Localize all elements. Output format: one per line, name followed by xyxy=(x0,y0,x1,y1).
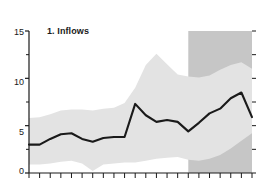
confidence-band xyxy=(29,54,252,171)
chart-panel: 1. Inflows 15 10 5 0 xyxy=(0,0,261,181)
chart-plot-area xyxy=(0,0,261,181)
band-polygon xyxy=(29,54,252,171)
